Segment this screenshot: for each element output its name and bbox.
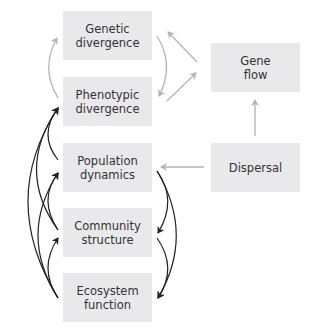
node-label: Ecosystem	[76, 284, 138, 298]
node-label: Genetic	[76, 22, 140, 36]
node-label: Dispersal	[229, 161, 282, 175]
arrow-ecosystem-to-community	[48, 238, 58, 298]
node-population-dynamics: Populationdynamics	[63, 143, 152, 192]
arrow-genetic-to-phenotypic	[157, 36, 167, 96]
node-label: divergence	[76, 36, 140, 50]
node-genetic-divergence: Geneticdivergence	[63, 11, 152, 60]
arrow-phenotypic-to-geneflow	[167, 73, 196, 101]
node-label: Phenotypic	[76, 88, 140, 102]
node-label: Gene	[240, 54, 270, 68]
node-dispersal: Dispersal	[211, 143, 300, 192]
node-label: function	[76, 298, 138, 312]
arrow-phenotypic-to-genetic	[49, 38, 58, 98]
arrow-geneflow-to-genetic	[168, 32, 197, 62]
node-label: Population	[77, 154, 137, 168]
node-label: Community	[74, 219, 141, 233]
node-phenotypic-divergence: Phenotypicdivergence	[63, 77, 152, 126]
node-community-structure: Communitystructure	[63, 208, 152, 257]
node-label: structure	[74, 233, 141, 247]
node-label: divergence	[76, 102, 140, 116]
node-label: flow	[240, 68, 270, 82]
node-gene-flow: Geneflow	[211, 43, 300, 92]
node-label: dynamics	[77, 168, 137, 182]
node-ecosystem-function: Ecosystemfunction	[63, 273, 152, 322]
arrow-ecosystem-to-population	[38, 173, 58, 298]
